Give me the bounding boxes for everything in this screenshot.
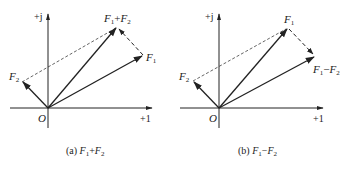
label-f1-minus-f2: F1−F2 (312, 63, 340, 77)
vector-f1-minus-f2 (219, 57, 314, 108)
label-f1-plus-f2: F1+F2 (103, 12, 131, 26)
y-axis-label: +j (34, 11, 42, 22)
dashed-parallel-long (22, 28, 116, 82)
vector-f1-plus-f2 (48, 28, 116, 108)
dashed-parallel-short (119, 29, 143, 55)
vector-f2 (194, 82, 219, 108)
label-f1: F1 (283, 13, 295, 27)
origin-label: O (38, 112, 46, 124)
label-f2: F2 (178, 70, 190, 84)
caption-b: (b) F1−F2 (238, 145, 278, 158)
origin-label: O (209, 112, 217, 124)
label-f1: F1 (145, 51, 157, 65)
panel-b: +j +1 O F1 F1−F2 F2 (b) F1−F2 (178, 11, 340, 158)
phasor-diagram: +j +1 O F1+F2 F1 F2 (a) F1+F2 +j +1 O F1… (0, 0, 347, 169)
dashed-parallel-long (193, 29, 286, 81)
label-f2: F2 (8, 70, 20, 84)
vector-f1 (48, 56, 142, 108)
x-axis-label: +1 (313, 113, 324, 124)
caption-a: (a) F1+F2 (66, 145, 105, 158)
vector-f1 (219, 29, 287, 108)
panel-a: +j +1 O F1+F2 F1 F2 (a) F1+F2 (8, 11, 157, 158)
vector-f2 (23, 82, 48, 108)
y-axis-label: +j (205, 11, 213, 22)
x-axis-label: +1 (140, 113, 151, 124)
dashed-parallel-short (289, 29, 313, 54)
